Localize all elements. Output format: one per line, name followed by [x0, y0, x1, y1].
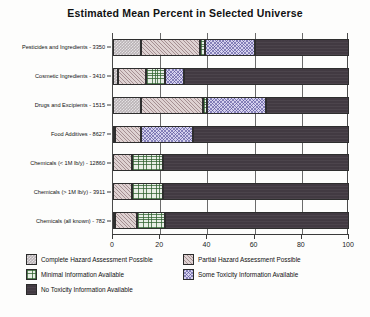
legend-item: Partial Hazard Assessment Possible [183, 254, 301, 265]
bar-segment [163, 183, 349, 200]
bar-segment [115, 212, 136, 229]
category-tick [107, 162, 111, 163]
bar-segment [184, 68, 349, 85]
bar-segment [132, 183, 163, 200]
bar-segment [205, 39, 255, 56]
bar-segment [165, 212, 349, 229]
bar-segment [113, 154, 132, 171]
plot-area [112, 33, 348, 235]
stacked-bar [113, 183, 347, 200]
bar-segment [141, 126, 193, 143]
bar-segment [255, 39, 349, 56]
category-tick [107, 220, 111, 221]
legend-swatch-icon [26, 254, 37, 265]
x-tick-label: 0 [110, 241, 114, 248]
x-tick [348, 234, 349, 239]
bar-segment [165, 68, 184, 85]
x-tick [254, 234, 255, 239]
category-label: Cosmetic Ingredients - 3410 [0, 73, 105, 79]
category-label: Drugs and Excipients - 1515 [0, 102, 105, 108]
bar-segment [115, 126, 141, 143]
category-tick [107, 76, 111, 77]
stacked-bar [113, 154, 347, 171]
bar-segment [141, 97, 202, 114]
x-tick-label: 20 [155, 241, 163, 248]
x-tick [159, 234, 160, 239]
legend-label: No Toxicity Information Available [41, 286, 133, 293]
stacked-bar [113, 97, 347, 114]
x-tick-label: 100 [342, 241, 354, 248]
chart-title: Estimated Mean Percent in Selected Unive… [0, 7, 370, 19]
category-tick [107, 105, 111, 106]
category-label: Chemicals (> 1M lb/y) - 3911 [0, 189, 105, 195]
legend-swatch-icon [183, 254, 194, 265]
bar-segment [163, 154, 349, 171]
x-tick-label: 80 [297, 241, 305, 248]
x-tick-label: 40 [202, 241, 210, 248]
x-tick [301, 234, 302, 239]
bar-segment [137, 212, 165, 229]
stacked-bar [113, 39, 347, 56]
stacked-bar [113, 126, 347, 143]
category-tick [107, 47, 111, 48]
legend-swatch-icon [26, 284, 37, 295]
bar-segment [113, 97, 141, 114]
x-tick [206, 234, 207, 239]
bar-segment [113, 39, 141, 56]
legend-label: Partial Hazard Assessment Possible [198, 256, 301, 263]
bar-segment [141, 39, 200, 56]
legend-swatch-icon [26, 269, 37, 280]
x-tick-label: 60 [250, 241, 258, 248]
stacked-bar [113, 68, 347, 85]
legend-item: Complete Hazard Assessment Possible [26, 254, 153, 265]
legend-item: No Toxicity Information Available [26, 284, 133, 295]
bar-segment [118, 68, 146, 85]
bar-segment [193, 126, 349, 143]
x-axis-line [112, 234, 348, 235]
bar-segment [146, 68, 165, 85]
bar-segment [207, 97, 266, 114]
legend-item: Minimal Information Available [26, 269, 124, 280]
chart-legend: Complete Hazard Assessment PossibleParti… [26, 254, 356, 306]
stacked-bar [113, 212, 347, 229]
bar-segment [113, 183, 132, 200]
category-tick [107, 191, 111, 192]
legend-label: Some Toxicity Information Available [198, 271, 298, 278]
category-label: Pesticides and Ingredients - 3350 [0, 44, 105, 50]
chart-figure: Estimated Mean Percent in Selected Unive… [0, 0, 370, 317]
legend-item: Some Toxicity Information Available [183, 269, 298, 280]
category-label: Food Additives - 8627 [0, 131, 105, 137]
legend-label: Complete Hazard Assessment Possible [41, 256, 153, 263]
bar-segment [266, 97, 349, 114]
category-tick [107, 134, 111, 135]
legend-label: Minimal Information Available [41, 271, 124, 278]
category-label: Chemicals (< 1M lb/y) - 12860 [0, 160, 105, 166]
category-label: Chemicals (all known) - 782 [0, 218, 105, 224]
legend-swatch-icon [183, 269, 194, 280]
x-tick [112, 234, 113, 239]
bar-segment [132, 154, 163, 171]
